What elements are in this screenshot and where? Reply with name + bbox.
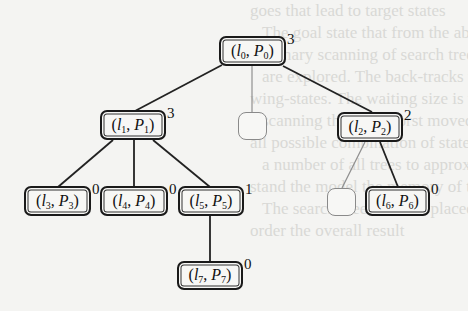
tree-node-n4: (l4, P4)	[100, 186, 168, 216]
node-label: (l7, P7)	[189, 266, 232, 285]
tree-node-n7: (l7, P7)	[177, 261, 243, 290]
node-count-badge: 0	[431, 182, 439, 197]
node-label: (l4, P4)	[113, 192, 156, 211]
tree-node-n2: (l2, P2)	[337, 112, 403, 142]
tree-node-n1: (l1, P1)	[100, 110, 166, 140]
tree-node-n6: (l6, P6)	[365, 186, 430, 216]
empty-node	[327, 188, 356, 216]
node-label: (l0, P0)	[231, 42, 274, 61]
tree-node-n0: (l0, P0)	[219, 36, 286, 66]
edge-n1-n3	[58, 140, 113, 187]
tree-node-n5: (l5, P5)	[178, 186, 244, 216]
edge-n0-n1	[135, 65, 222, 111]
node-count-badge: 3	[287, 32, 295, 47]
node-count-badge: 1	[245, 182, 253, 197]
tree-node-n3: (l3, P3)	[24, 186, 91, 216]
node-label: (l1, P1)	[112, 116, 155, 135]
edge-n0-n2	[283, 66, 372, 112]
edge-n1-n5	[153, 140, 210, 187]
node-label: (l6, P6)	[376, 192, 419, 211]
empty-node	[238, 112, 267, 140]
node-label: (l2, P2)	[349, 118, 392, 137]
node-count-badge: 3	[167, 106, 175, 121]
node-count-badge: 0	[244, 257, 252, 272]
node-count-badge: 2	[404, 108, 412, 123]
node-count-badge: 0	[169, 182, 177, 197]
node-label: (l3, P3)	[36, 192, 79, 211]
edge-n2-e2	[342, 142, 365, 188]
node-label: (l5, P5)	[190, 192, 233, 211]
node-count-badge: 0	[92, 182, 100, 197]
edge-n2-n6	[380, 142, 398, 187]
